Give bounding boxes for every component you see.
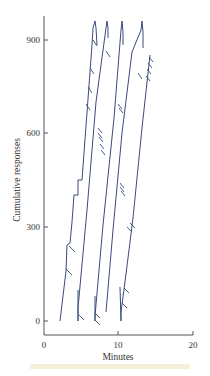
- record-line-4: [106, 21, 143, 312]
- y-tick-label: 900: [27, 35, 41, 45]
- x-axis-title: Minutes: [102, 352, 133, 362]
- y-axis-title: Cumulative responses: [12, 138, 22, 222]
- record-line-1: [60, 21, 97, 321]
- x-tick-label: 20: [189, 340, 199, 350]
- y-ticks: 0 300 600 900: [27, 35, 49, 326]
- x-ticks: 0 10 20: [42, 331, 198, 350]
- record-line-5: [120, 55, 150, 321]
- reinforcement-marks: [66, 40, 153, 325]
- cumulative-record-chart: 0 300 600 900 0 10 20 Minutes Cumulative…: [0, 0, 210, 376]
- cumulative-records: [60, 21, 150, 321]
- y-tick-label: 300: [27, 222, 41, 232]
- x-tick-label: 10: [114, 340, 124, 350]
- y-tick-label: 600: [27, 128, 41, 138]
- x-tick-label: 0: [42, 340, 47, 350]
- y-tick-label: 0: [36, 316, 41, 326]
- page-edge-strip: [30, 364, 190, 369]
